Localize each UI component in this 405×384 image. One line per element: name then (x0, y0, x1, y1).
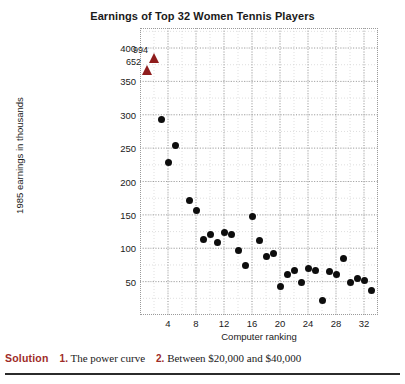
solution-item-2-text: Between $20,000 and $40,000 (167, 352, 301, 364)
offscale-triangle-marker (142, 65, 152, 75)
y-axis-ticks: 50100150200250300350400 (94, 28, 136, 315)
y-tick-label: 350 (96, 76, 136, 87)
x-tick-label: 24 (293, 318, 323, 329)
data-point (354, 275, 361, 282)
data-point (305, 265, 312, 272)
data-point (193, 207, 200, 214)
x-axis-ticks: 48121620242832 (140, 318, 378, 332)
data-point (298, 279, 305, 286)
data-point (319, 297, 326, 304)
data-point (291, 267, 298, 274)
data-point (361, 277, 368, 284)
x-tick-label: 32 (349, 318, 379, 329)
data-point (186, 197, 193, 204)
footer-divider (5, 373, 400, 375)
y-tick-label: 200 (96, 176, 136, 187)
x-tick-label: 4 (153, 318, 183, 329)
data-point (277, 283, 284, 290)
data-point (158, 116, 165, 123)
data-point (221, 229, 228, 236)
data-point (270, 250, 277, 257)
y-tick-label: 300 (96, 109, 136, 120)
solution-label: Solution (5, 352, 49, 364)
x-axis-label: Computer ranking (140, 331, 378, 342)
data-point (214, 239, 221, 246)
offscale-value-label: 994 (116, 45, 148, 55)
y-tick-label: 50 (96, 276, 136, 287)
data-point (172, 142, 179, 149)
plot-area: 652994 (140, 28, 378, 315)
data-point (242, 262, 249, 269)
y-axis-label: 1985 earnings in thousands (14, 71, 25, 241)
data-point (347, 279, 354, 286)
x-tick-label: 16 (237, 318, 267, 329)
data-point (235, 247, 242, 254)
data-point (263, 253, 270, 260)
solution-line: Solution 1. The power curve 2. Between $… (5, 352, 301, 364)
data-point (284, 271, 291, 278)
data-point (228, 231, 235, 238)
offscale-triangle-marker (149, 53, 159, 63)
y-tick-label: 150 (96, 209, 136, 220)
plot-frame (140, 28, 378, 315)
data-point (200, 236, 207, 243)
x-tick-label: 28 (321, 318, 351, 329)
data-point (207, 231, 214, 238)
solution-item-1-number: 1. (60, 353, 68, 364)
footer: Solution 1. The power curve 2. Between $… (0, 348, 405, 384)
data-point (312, 267, 319, 274)
chart-title: Earnings of Top 32 Women Tennis Players (0, 10, 405, 22)
data-point (165, 159, 172, 166)
offscale-value-label: 652 (109, 57, 141, 67)
y-tick-label: 100 (96, 243, 136, 254)
solution-item-2-number: 2. (156, 353, 164, 364)
x-tick-label: 12 (209, 318, 239, 329)
chart-figure: Earnings of Top 32 Women Tennis Players … (0, 0, 405, 345)
data-point (333, 271, 340, 278)
x-tick-label: 20 (265, 318, 295, 329)
solution-item-1-text: The power curve (71, 352, 146, 364)
data-point (326, 268, 333, 275)
data-point (340, 255, 347, 262)
x-tick-label: 8 (181, 318, 211, 329)
data-point (256, 237, 263, 244)
y-tick-label: 250 (96, 143, 136, 154)
data-point (249, 213, 256, 220)
